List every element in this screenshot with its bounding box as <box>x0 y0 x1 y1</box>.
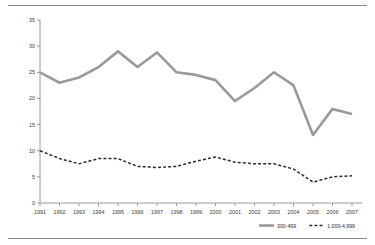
x-tick-label: 1996 <box>132 209 144 215</box>
series-lines <box>40 51 352 182</box>
x-tick-label: 2005 <box>307 209 319 215</box>
y-axis: 05101520253035 <box>29 17 40 206</box>
x-axis: 1991199219931994199519961997199819992000… <box>34 203 362 215</box>
x-tick-label: 1994 <box>93 209 105 215</box>
x-tick-label: 1991 <box>34 209 46 215</box>
series-line-300-499 <box>40 51 352 135</box>
chart-legend: 300-4991,000-4,999 <box>259 223 355 229</box>
series-line-1-000-4-999 <box>40 151 352 182</box>
x-tick-label: 2004 <box>288 209 300 215</box>
y-tick-label: 25 <box>29 69 35 75</box>
x-tick-label: 2001 <box>229 209 241 215</box>
x-tick-label: 2006 <box>327 209 339 215</box>
legend-label: 300-499 <box>277 223 296 229</box>
x-tick-label: 1999 <box>190 209 202 215</box>
y-tick-label: 30 <box>29 43 35 49</box>
x-tick-label: 2007 <box>346 209 358 215</box>
x-tick-label: 1997 <box>151 209 163 215</box>
x-tick-label: 1998 <box>171 209 183 215</box>
x-tick-label: 2003 <box>268 209 280 215</box>
legend-label: 1,000-4,999 <box>327 223 355 229</box>
line-chart: 05101520253035 1991199219931994199519961… <box>0 0 375 245</box>
y-tick-label: 15 <box>29 122 35 128</box>
y-tick-label: 10 <box>29 148 35 154</box>
y-tick-label: 0 <box>32 200 35 206</box>
x-tick-label: 1992 <box>54 209 66 215</box>
x-tick-label: 1995 <box>112 209 124 215</box>
x-tick-label: 2000 <box>210 209 222 215</box>
x-tick-label: 1993 <box>73 209 85 215</box>
x-tick-label: 2002 <box>249 209 261 215</box>
y-tick-label: 20 <box>29 95 35 101</box>
plot-area: 05101520253035 1991199219931994199519961… <box>0 0 375 245</box>
y-tick-label: 5 <box>32 174 35 180</box>
chart-figure: 05101520253035 1991199219931994199519961… <box>0 0 375 245</box>
y-tick-label: 35 <box>29 17 35 23</box>
